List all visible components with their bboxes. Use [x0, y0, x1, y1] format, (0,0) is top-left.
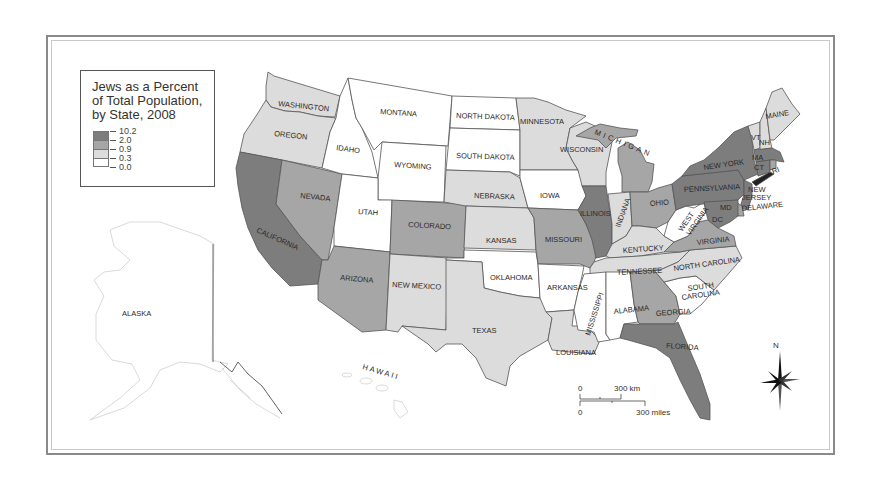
legend-title: Jews as a Percent of Total Population, b… [92, 80, 214, 122]
label-louisiana: LOUISIANA [556, 348, 596, 357]
state-new-mexico[interactable] [386, 254, 448, 332]
state-wyoming[interactable] [378, 142, 446, 202]
label-hawaii: HAWAII [361, 362, 400, 381]
label-oklahoma: OKLAHOMA [490, 273, 533, 282]
state-new-york[interactable] [682, 126, 758, 180]
label-dc: DC [712, 215, 723, 224]
legend-swatch-class-2 [93, 149, 109, 158]
legend-title-line-1: Jews as a Percent [92, 80, 214, 94]
label-md: MD [720, 203, 732, 212]
label-kansas: KANSAS [486, 236, 516, 245]
alaska-panhandle [220, 362, 282, 414]
label-minnesota: MINNESOTA [520, 117, 564, 126]
state-alaska[interactable] [90, 222, 228, 420]
scale-km-zero: 0 [578, 384, 583, 393]
legend-break-labels: 10.2 2.0 0.9 0.3 0.0 [110, 127, 137, 172]
label-ct: CT [754, 163, 764, 172]
label-nh: NH [759, 138, 770, 147]
label-utah: UTAH [358, 207, 378, 217]
label-ma: MA [752, 153, 763, 162]
legend-swatches [93, 131, 109, 167]
legend-title-line-2: of Total Population, [92, 94, 214, 108]
compass-rose-icon: N [760, 341, 800, 411]
label-nebraska: NEBRASKA [474, 191, 515, 201]
legend-swatch-class-3 [93, 140, 109, 149]
scale-mi-zero: 0 [578, 408, 583, 417]
map-legend: Jews as a Percent of Total Population, b… [80, 70, 215, 187]
legend-swatch-class-4 [93, 131, 109, 140]
label-ohio: OHIO [650, 198, 670, 208]
label-alaska: ALASKA [122, 309, 151, 318]
state-iowa[interactable] [520, 170, 586, 210]
label-georgia: GEORGIA [656, 307, 692, 318]
legend-break-4: 0.0 [110, 163, 137, 172]
label-missouri: MISSOURI [545, 235, 582, 244]
label-wisconsin: WISCONSIN [560, 145, 603, 154]
scale-km-label: 300 km [614, 384, 641, 393]
legend-title-line-3: by State, 2008 [92, 108, 214, 122]
label-texas: TEXAS [472, 326, 497, 335]
label-arkansas: ARKANSAS [547, 283, 588, 292]
state-florida[interactable] [620, 322, 710, 420]
state-nebraska[interactable] [444, 170, 528, 208]
alaska-panhandle-islands [222, 368, 280, 418]
label-iowa: IOWA [540, 191, 560, 200]
legend-swatch-class-1 [93, 158, 109, 167]
label-illinois: ILLINOIS [580, 209, 611, 218]
north-label: N [773, 341, 779, 350]
scale-mi-label: 300 miles [636, 408, 670, 417]
scale-bar: 0 300 km 0 300 miles [578, 384, 670, 417]
label-ri: RI [771, 165, 781, 176]
state-arizona[interactable] [318, 246, 390, 332]
